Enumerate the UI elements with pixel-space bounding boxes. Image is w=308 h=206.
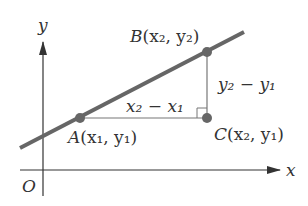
point-a-name: A xyxy=(66,127,80,147)
point-b-coords: (x₂, y₂) xyxy=(143,26,200,46)
point-c-coords: (x₂, y₁) xyxy=(227,124,284,144)
point-b-label: B(x₂, y₂) xyxy=(129,26,199,46)
point-a xyxy=(75,113,85,123)
run-label: x₂ − x₁ xyxy=(126,96,184,116)
origin-label: O xyxy=(22,176,36,196)
point-a-label: A(x₁, y₁) xyxy=(66,127,137,147)
point-a-coords: (x₁, y₁) xyxy=(80,127,137,147)
x-axis-label: x xyxy=(286,160,296,180)
coordinate-diagram: x y O B(x₂, y₂) A(x₁, y₁) C(x₂, y₁) x₂ −… xyxy=(0,0,308,206)
rise-label: y₂ − y₁ xyxy=(217,74,276,94)
y-axis-label: y xyxy=(37,15,48,35)
point-b-name: B xyxy=(129,26,143,46)
point-c xyxy=(202,113,212,123)
point-b xyxy=(202,47,212,57)
point-c-name: C xyxy=(214,124,227,144)
point-c-label: C(x₂, y₁) xyxy=(214,124,284,144)
